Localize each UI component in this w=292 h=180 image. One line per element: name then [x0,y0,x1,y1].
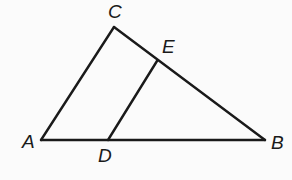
segment-ac [41,27,114,140]
label-point-c: C [108,1,122,22]
geometry-diagram: A B C D E [0,0,292,180]
segment-de [108,61,157,140]
label-point-d: D [98,145,112,166]
label-point-e: E [162,36,175,57]
segment-cb [114,27,265,140]
label-point-a: A [21,131,35,152]
triangle-figure: A B C D E [0,0,292,180]
label-point-b: B [271,132,284,153]
